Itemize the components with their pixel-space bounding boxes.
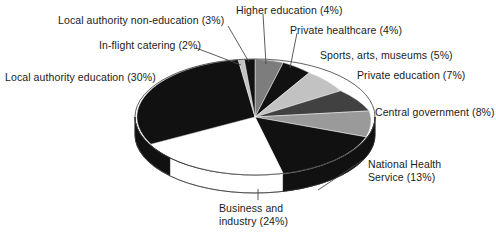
leader-line-local-authority-non-education [228,26,249,62]
label-business-line1: Business and [219,202,283,214]
pie-chart-figure: Local authority non-education (3%) In-fl… [0,0,496,232]
label-higher-education: Higher education (4%) [236,4,343,17]
label-central-government: Central government (8%) [375,106,495,119]
leader-line-private-healthcare [290,33,297,68]
pie-top-face [135,59,375,175]
label-nhs-line1: National Health [368,158,441,170]
label-business-and-industry: Business and industry (24%) [219,202,339,227]
label-private-education: Private education (7%) [357,69,465,82]
leader-line-higher-education [263,14,266,64]
label-sports-arts-museums: Sports, arts, museums (5%) [320,49,453,62]
label-private-healthcare: Private healthcare (4%) [290,24,402,37]
label-local-authority-education: Local authority education (30%) [5,71,156,84]
label-local-authority-non-education: Local authority non-education (3%) [58,14,224,27]
label-national-health-service: National Health Service (13%) [368,158,488,183]
label-nhs-line2: Service (13%) [368,171,435,183]
label-business-line2: industry (24%) [219,215,288,227]
label-in-flight-catering: In-flight catering (2%) [99,39,201,52]
